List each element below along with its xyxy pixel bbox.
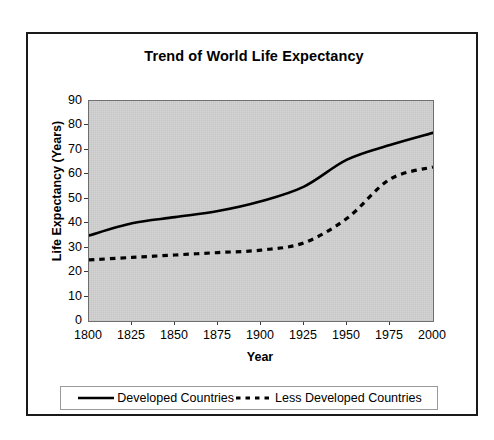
legend-solid-line-icon [76,393,116,403]
chart-legend: Developed CountriesLess Developed Countr… [60,386,438,410]
legend-entry-1: Developed Countries [76,391,234,405]
y-axis-tick-50: 50 [30,192,82,204]
y-axis-tick-30: 30 [30,241,82,253]
legend-entry-2: Less Developed Countries [234,391,422,405]
y-axis-tick-20: 20 [30,265,82,277]
y-axis-tick-90: 90 [30,94,82,106]
y-axis-tick-40: 40 [30,216,82,228]
y-axis-tick-80: 80 [30,118,82,130]
y-axis-tick-60: 60 [30,167,82,179]
y-axis-tick-70: 70 [30,143,82,155]
x-axis-tick-2000: 2000 [405,329,459,342]
y-axis-tick-10: 10 [30,290,82,302]
legend-label: Less Developed Countries [275,391,422,405]
chart-title: Trend of World Life Expectancy [28,48,480,64]
series-line-2 [89,167,433,260]
x-axis-title: Year [88,350,432,364]
plot-series-canvas [89,101,433,321]
legend-label: Developed Countries [117,391,234,405]
y-axis-tick-0: 0 [30,314,82,326]
chart-figure-frame: Trend of World Life Expectancy Life Expe… [26,32,478,416]
legend-dashed-line-icon [234,393,274,403]
series-line-1 [89,133,433,236]
plot-area [88,100,434,322]
